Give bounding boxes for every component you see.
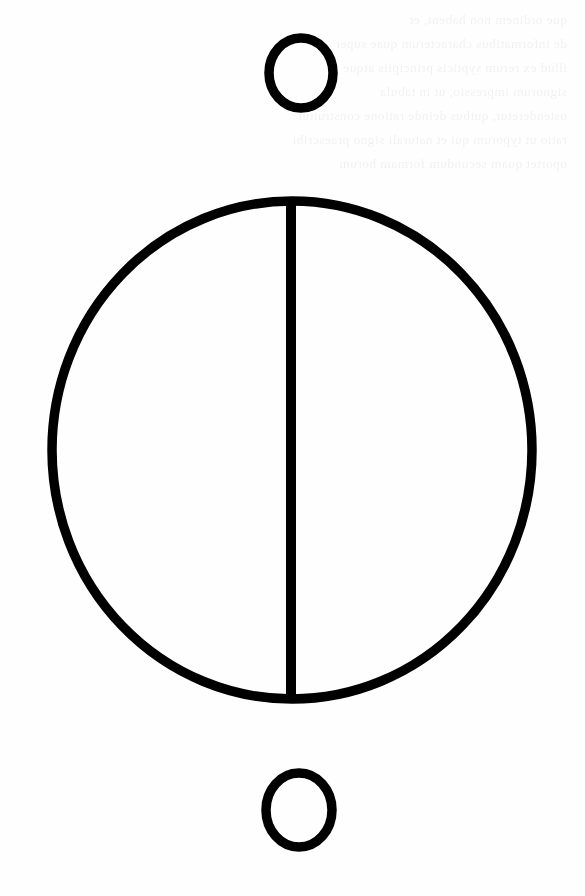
lower-small-circle	[266, 773, 332, 847]
upper-small-circle	[269, 38, 333, 108]
bisected-circle-symbol	[0, 0, 585, 896]
scanned-page: que ordinem non habent, et de informatib…	[0, 0, 585, 896]
